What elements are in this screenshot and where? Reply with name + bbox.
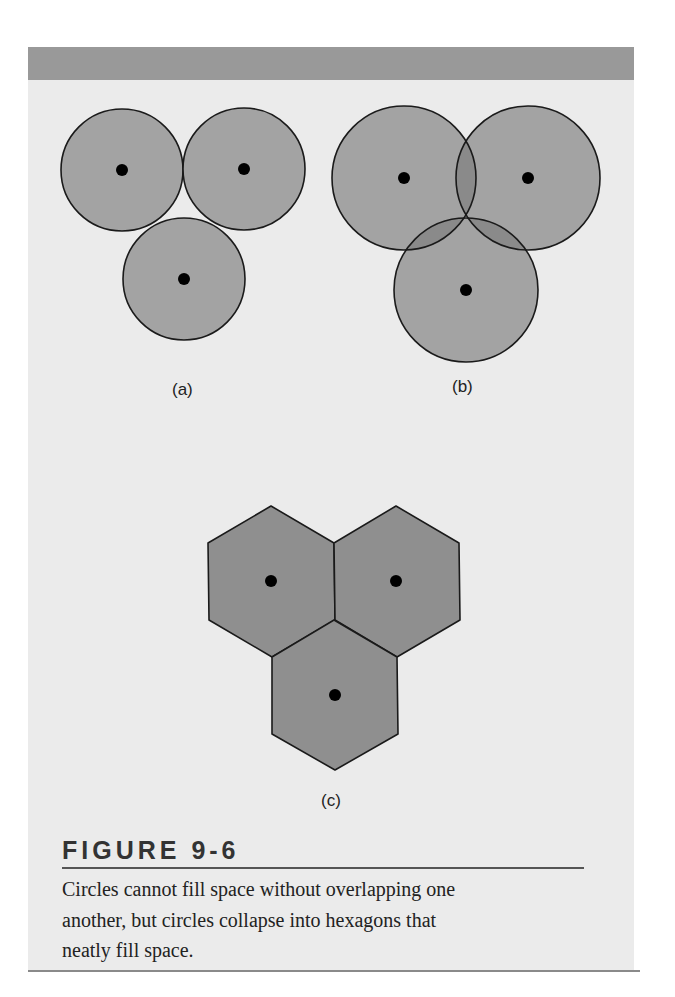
caption-line: another, but circles collapse into hexag… xyxy=(62,905,602,936)
figure-number: FIGURE 9-6 xyxy=(62,836,240,865)
panel-b-label: (b) xyxy=(452,377,473,397)
caption-line: neatly fill space. xyxy=(62,935,602,966)
center-dot-icon xyxy=(265,575,277,587)
panel-a-circles xyxy=(61,108,305,340)
center-dot-icon xyxy=(460,284,472,296)
center-dot-icon xyxy=(329,689,341,701)
panel-c-hexagons xyxy=(208,506,460,770)
center-dot-icon xyxy=(398,172,410,184)
figure-title-rule xyxy=(62,867,584,869)
center-dot-icon xyxy=(238,163,250,175)
panel-a-label: (a) xyxy=(172,380,193,400)
panel-c-label: (c) xyxy=(321,791,341,811)
center-dot-icon xyxy=(390,575,402,587)
center-dot-icon xyxy=(178,273,190,285)
caption-line: Circles cannot fill space without overla… xyxy=(62,874,602,905)
figure-caption: Circles cannot fill space without overla… xyxy=(62,874,602,966)
center-dot-icon xyxy=(116,164,128,176)
center-dot-icon xyxy=(522,172,534,184)
panel-b-circles xyxy=(332,106,600,362)
